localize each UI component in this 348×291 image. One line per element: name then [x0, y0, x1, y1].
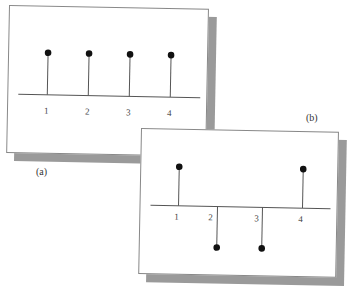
stem-1: [47, 53, 48, 95]
tick-label-3: 3: [254, 213, 259, 223]
stem-4: [302, 169, 303, 208]
stem-4: [170, 55, 171, 97]
tick-label-3: 3: [126, 107, 131, 117]
stem-dot-4: [300, 166, 307, 173]
stem-2: [88, 54, 89, 96]
stem-dot-1: [45, 49, 52, 56]
tick-label-1: 1: [174, 212, 179, 222]
stem-dot-3: [258, 245, 265, 252]
stem-3: [129, 54, 130, 96]
stem-dot-2: [86, 50, 93, 57]
stem-dot-4: [168, 52, 175, 59]
stem-plot-b: 1 2 3 4: [139, 129, 340, 279]
stem-dot-3: [127, 51, 134, 58]
tick-label-4: 4: [298, 214, 303, 224]
axis-line: [151, 205, 331, 208]
tick-label-4: 4: [167, 108, 172, 118]
stem-dot-2: [213, 244, 220, 251]
tick-label-2: 2: [208, 212, 213, 222]
tick-label-1: 1: [44, 106, 49, 116]
panel-b: 1 2 3 4: [138, 128, 339, 278]
stem-dot-1: [176, 163, 183, 170]
stem-1: [179, 167, 180, 206]
caption-b: (b): [306, 112, 318, 123]
tick-label-2: 2: [85, 106, 90, 116]
stem-3: [262, 207, 263, 248]
caption-a: (a): [36, 166, 47, 177]
axis-line: [18, 94, 200, 97]
stem-2: [217, 206, 218, 247]
panel-b-card: 1 2 3 4: [138, 128, 339, 278]
